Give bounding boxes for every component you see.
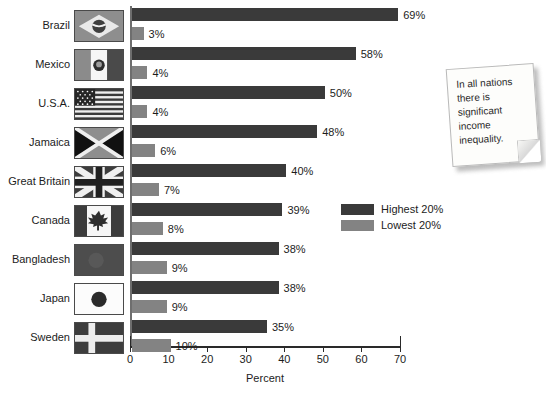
x-axis-right-cap [400, 336, 401, 346]
bar-value-highest: 69% [403, 9, 425, 21]
country-label-u-s-a-: U.S.A. [0, 97, 70, 109]
x-axis-tick-50 [323, 346, 324, 352]
legend-swatch-lowest-icon [341, 220, 374, 231]
sticky-note-text: In all nations there is significant inco… [456, 74, 534, 148]
bar-highest-sweden [132, 320, 267, 333]
bar-lowest-u-s-a- [132, 105, 147, 118]
x-axis-tick-label-20: 20 [201, 353, 213, 365]
flag-great-britain-icon [74, 166, 124, 198]
flag-japan-icon [74, 283, 124, 315]
country-label-sweden: Sweden [0, 331, 70, 343]
bar-value-lowest: 8% [168, 223, 184, 235]
bar-highest-japan [132, 281, 279, 294]
legend-swatch-highest-icon [341, 204, 374, 215]
bar-lowest-jamaica [132, 144, 155, 157]
bar-lowest-mexico [132, 66, 147, 79]
bar-lowest-canada [132, 222, 163, 235]
legend-item-lowest: Lowest 20% [341, 218, 443, 232]
legend-label-lowest: Lowest 20% [381, 219, 441, 231]
x-axis-title: Percent [0, 372, 546, 384]
flag-usa-icon [74, 88, 124, 120]
income-inequality-bar-chart: 010203040506070 Brazil 69%3%Mexico 58%4%… [0, 0, 546, 393]
flag-jamaica-icon [74, 127, 124, 159]
country-label-jamaica: Jamaica [0, 136, 70, 148]
bar-lowest-sweden [132, 339, 171, 352]
x-axis-tick-label-0: 0 [127, 353, 133, 365]
country-label-great-britain: Great Britain [0, 175, 70, 187]
x-axis-tick-20 [207, 346, 208, 352]
bar-highest-u-s-a- [132, 86, 325, 99]
country-label-mexico: Mexico [0, 58, 70, 70]
bar-highest-mexico [132, 47, 356, 60]
bar-lowest-brazil [132, 27, 144, 40]
country-label-brazil: Brazil [0, 19, 70, 31]
bar-highest-canada [132, 203, 282, 216]
bar-lowest-bangladesh [132, 261, 167, 274]
bar-value-lowest: 7% [164, 184, 180, 196]
flag-canada-icon [74, 205, 124, 237]
x-axis-tick-30 [246, 346, 247, 352]
x-axis-title-text: Percent [246, 372, 284, 384]
legend-label-highest: Highest 20% [381, 203, 443, 215]
sticky-note: In all nations there is significant inco… [446, 63, 541, 167]
bar-highest-great-britain [132, 164, 286, 177]
bar-lowest-great-britain [132, 183, 159, 196]
chart-legend: Highest 20% Lowest 20% [341, 202, 443, 234]
bar-value-highest: 58% [361, 48, 383, 60]
bar-value-highest: 35% [272, 321, 294, 333]
bar-value-highest: 38% [284, 282, 306, 294]
country-label-japan: Japan [0, 292, 70, 304]
x-axis-tick-label-50: 50 [317, 353, 329, 365]
x-axis-tick-label-10: 10 [162, 353, 174, 365]
x-axis-tick-0 [130, 346, 131, 352]
bar-highest-bangladesh [132, 242, 279, 255]
bar-value-highest: 48% [322, 126, 344, 138]
bar-value-highest: 38% [284, 243, 306, 255]
country-label-canada: Canada [0, 214, 70, 226]
x-axis-tick-label-60: 60 [355, 353, 367, 365]
bar-lowest-japan [132, 300, 167, 313]
flag-bangladesh-icon [74, 244, 124, 276]
bar-value-highest: 39% [287, 204, 309, 216]
country-label-bangladesh: Bangladesh [0, 253, 70, 265]
flag-brazil-icon [74, 10, 124, 42]
x-axis-tick-70 [400, 346, 401, 352]
bar-value-lowest: 10% [176, 340, 198, 352]
bar-value-highest: 50% [330, 87, 352, 99]
bar-value-lowest: 3% [149, 28, 165, 40]
bar-value-highest: 40% [291, 165, 313, 177]
x-axis-left-cap [130, 336, 131, 346]
bar-value-lowest: 6% [160, 145, 176, 157]
bar-value-lowest: 9% [172, 301, 188, 313]
flag-sweden-icon [74, 322, 124, 354]
bar-highest-jamaica [132, 125, 317, 138]
flag-mexico-icon [74, 49, 124, 81]
bar-value-lowest: 4% [152, 106, 168, 118]
legend-item-highest: Highest 20% [341, 202, 443, 216]
x-axis-tick-label-70: 70 [394, 353, 406, 365]
bar-value-lowest: 9% [172, 262, 188, 274]
x-axis-tick-40 [284, 346, 285, 352]
x-axis-tick-label-40: 40 [278, 353, 290, 365]
x-axis-tick-label-30: 30 [240, 353, 252, 365]
x-axis-tick-60 [361, 346, 362, 352]
bar-value-lowest: 4% [152, 67, 168, 79]
x-axis-line [130, 346, 401, 348]
bar-highest-brazil [132, 8, 398, 21]
